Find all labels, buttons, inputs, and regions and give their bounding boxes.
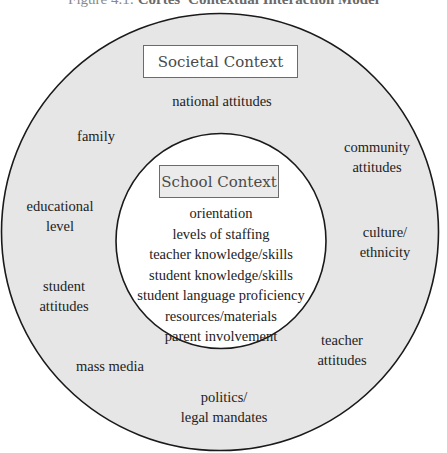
factor-line: educational	[27, 196, 94, 216]
school-factor: parent involvement	[137, 326, 305, 347]
societal-context-heading-box: Societal Context	[143, 45, 298, 78]
factor-line: national attitudes	[172, 91, 271, 111]
factor-line: family	[77, 126, 115, 146]
factor-politics-legal-mandates: politics/ legal mandates	[181, 387, 268, 427]
factor-national-attitudes: national attitudes	[172, 91, 271, 111]
school-factor: levels of staffing	[137, 224, 305, 245]
school-context-heading: School Context	[161, 173, 277, 191]
school-factor: teacher knowledge/skills	[137, 244, 305, 265]
factor-line: culture/	[360, 222, 411, 242]
factor-line: ethnicity	[360, 242, 411, 262]
factor-line: attitudes	[39, 296, 88, 316]
factor-line: politics/	[181, 387, 268, 407]
factor-line: mass media	[76, 356, 144, 376]
factor-teacher-attitudes: teacher attitudes	[317, 330, 366, 370]
school-factor: orientation	[137, 203, 305, 224]
factor-line: teacher	[317, 330, 366, 350]
factor-line: attitudes	[317, 350, 366, 370]
factor-community-attitudes: community attitudes	[344, 137, 410, 177]
factor-student-attitudes: student attitudes	[39, 276, 88, 316]
factor-family: family	[77, 126, 115, 146]
factor-line: level	[27, 216, 94, 236]
school-factor: student language proficiency	[137, 285, 305, 306]
factor-line: attitudes	[344, 157, 410, 177]
factor-line: community	[344, 137, 410, 157]
factor-line: student	[39, 276, 88, 296]
factor-mass-media: mass media	[76, 356, 144, 376]
school-context-heading-box: School Context	[159, 165, 279, 198]
school-context-factor-list: orientation levels of staffing teacher k…	[137, 203, 305, 347]
school-factor: student knowledge/skills	[137, 265, 305, 286]
factor-line: legal mandates	[181, 407, 268, 427]
school-factor: resources/materials	[137, 306, 305, 327]
factor-culture-ethnicity: culture/ ethnicity	[360, 222, 411, 262]
factor-educational-level: educational level	[27, 196, 94, 236]
societal-context-heading: Societal Context	[158, 53, 283, 71]
